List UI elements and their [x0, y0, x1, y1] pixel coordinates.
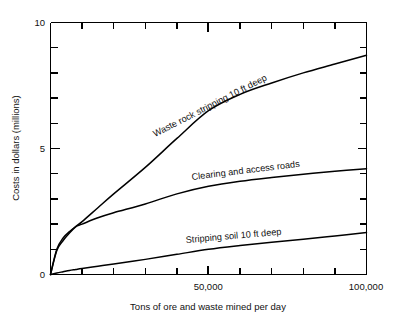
- series-label-waste-rock: Waste rock stripping 10 ft deep: [151, 73, 268, 139]
- chart-canvas: 10 5 0 50,000 100,000 Costs in dollars (…: [0, 0, 403, 323]
- chart-figure: 10 5 0 50,000 100,000 Costs in dollars (…: [0, 0, 403, 323]
- y-tick-label-0: 0: [40, 269, 45, 280]
- y-axis-title: Costs in dollars (millions): [10, 95, 21, 201]
- x-axis-ticks: [82, 266, 335, 275]
- series-label-clearing: Clearing and access roads: [191, 159, 301, 182]
- x-tick-label-100000: 100,000: [349, 281, 383, 292]
- y-tick-label-10: 10: [34, 17, 45, 28]
- y-axis-ticks: [51, 48, 60, 250]
- x-tick-label-50000: 50,000: [194, 281, 223, 292]
- x-axis-top-ticks: [82, 23, 335, 32]
- y-axis-right-ticks: [358, 48, 367, 250]
- y-tick-label-5: 5: [40, 143, 45, 154]
- series-line-clearing: [51, 169, 367, 275]
- x-axis-title: Tons of ore and waste mined per day: [130, 301, 286, 312]
